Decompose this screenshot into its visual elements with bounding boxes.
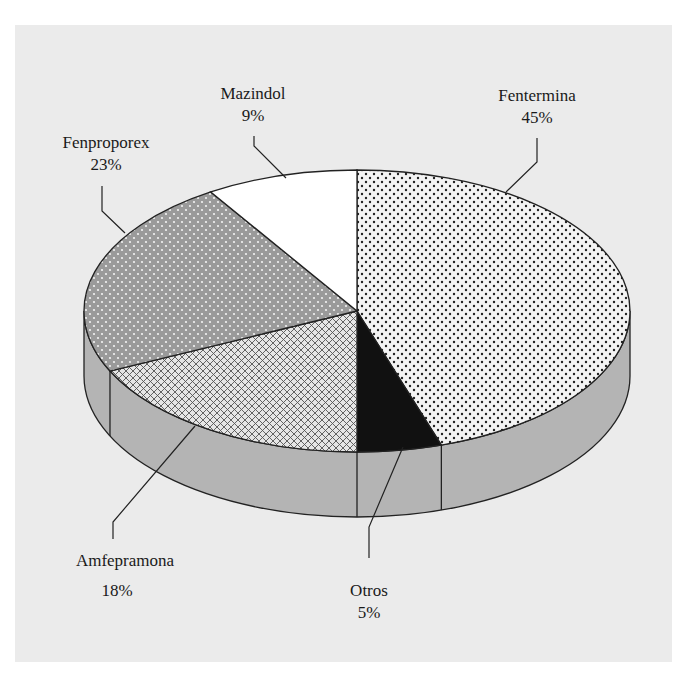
label-mazindol-pct: 9% [203,105,303,127]
label-fentermina-pct: 45% [482,107,592,129]
leader-line-mazindol [254,136,286,178]
label-amfepramona-name: Amfepramona [60,550,190,572]
label-fentermina: Fentermina 45% [482,85,592,129]
label-amfepramona-pct: 18% [44,580,190,602]
label-mazindol-name: Mazindol [203,83,303,105]
label-otros-pct: 5% [334,602,404,624]
label-otros: Otros 5% [334,580,404,624]
label-fenproporex-name: Fenproporex [48,132,164,154]
label-fenproporex-pct: 23% [48,154,164,176]
pie-top-face [84,170,630,452]
label-otros-name: Otros [334,580,404,602]
leader-line-fentermina [506,138,537,192]
label-fenproporex: Fenproporex 23% [48,132,164,176]
label-mazindol: Mazindol 9% [203,83,303,127]
label-amfepramona: Amfepramona 18% [60,550,190,602]
label-fentermina-name: Fentermina [482,85,592,107]
leader-line-fenproporex [102,186,125,233]
